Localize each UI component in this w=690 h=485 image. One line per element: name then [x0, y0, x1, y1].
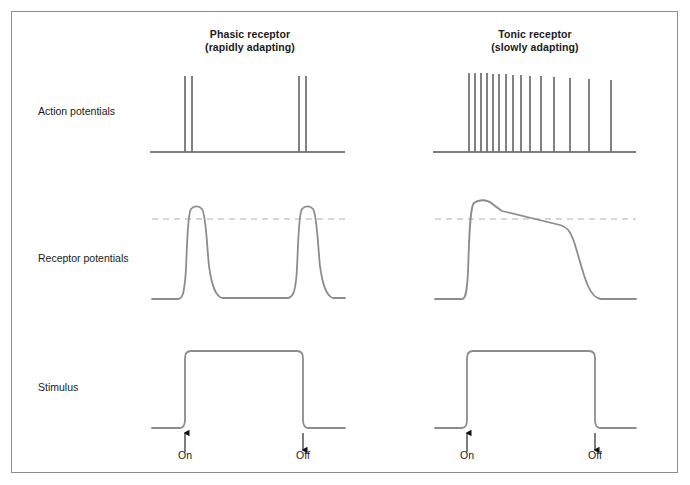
column-title-tonic-line1: Tonic receptor [440, 28, 630, 41]
row-label-receptor-potentials: Receptor potentials [38, 252, 128, 264]
off-label-phasic: Off [288, 449, 318, 461]
column-title-phasic: Phasic receptor (rapidly adapting) [155, 28, 345, 54]
row-label-action-potentials: Action potentials [38, 105, 115, 117]
on-label-phasic: On [170, 449, 200, 461]
column-title-tonic-line2: (slowly adapting) [440, 41, 630, 54]
column-title-tonic: Tonic receptor (slowly adapting) [440, 28, 630, 54]
figure-root: Phasic receptor (rapidly adapting) Tonic… [0, 0, 690, 485]
figure-border [11, 11, 678, 473]
row-label-stimulus: Stimulus [38, 381, 78, 393]
column-title-phasic-line2: (rapidly adapting) [155, 41, 345, 54]
on-label-tonic: On [452, 449, 482, 461]
off-label-tonic: Off [580, 449, 610, 461]
column-title-phasic-line1: Phasic receptor [155, 28, 345, 41]
